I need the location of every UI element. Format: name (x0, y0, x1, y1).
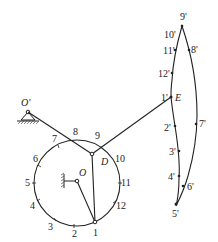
svg-text:8': 8' (191, 44, 198, 55)
label-d: D (100, 156, 109, 167)
svg-text:1: 1 (93, 227, 98, 238)
svg-text:4: 4 (30, 200, 35, 211)
svg-text:10: 10 (115, 153, 125, 164)
label-e: E (174, 92, 181, 103)
linkage-diagram: O' O D E 1 2 3 4 5 6 7 8 9 10 11 12 1' 2… (0, 0, 218, 242)
label-o-prime: O' (21, 97, 31, 108)
circle-ticks (32, 145, 122, 228)
coupler-link-de (92, 97, 171, 154)
svg-text:9': 9' (180, 11, 187, 22)
curve-labels: 1' 2' 3' 4' 5' 6' 7' 8' 9' 10' 11' 12' (158, 11, 206, 219)
joint-1 (93, 220, 97, 224)
svg-text:5': 5' (172, 208, 179, 219)
svg-text:5: 5 (25, 177, 30, 188)
svg-text:2': 2' (164, 122, 171, 133)
svg-text:3: 3 (48, 221, 53, 232)
svg-text:4': 4' (168, 171, 175, 182)
joint-d (90, 152, 94, 156)
label-o: O (79, 167, 86, 178)
pivot-o (75, 179, 79, 183)
svg-text:12': 12' (158, 68, 170, 79)
rocker-link (28, 112, 92, 154)
ground-pivot-o (61, 173, 76, 188)
svg-text:9: 9 (95, 130, 100, 141)
svg-text:1': 1' (161, 92, 168, 103)
svg-text:11: 11 (121, 177, 131, 188)
svg-text:6: 6 (33, 153, 38, 164)
coupler-link-1d (92, 154, 95, 222)
svg-text:6': 6' (187, 181, 194, 192)
svg-text:3': 3' (169, 146, 176, 157)
svg-text:7: 7 (52, 133, 57, 144)
svg-text:11': 11' (163, 45, 175, 56)
crank-link (77, 181, 95, 222)
svg-text:10': 10' (164, 29, 176, 40)
svg-text:8: 8 (73, 126, 78, 137)
svg-text:2: 2 (72, 228, 77, 239)
svg-text:7': 7' (199, 118, 206, 129)
svg-text:12: 12 (116, 200, 126, 211)
